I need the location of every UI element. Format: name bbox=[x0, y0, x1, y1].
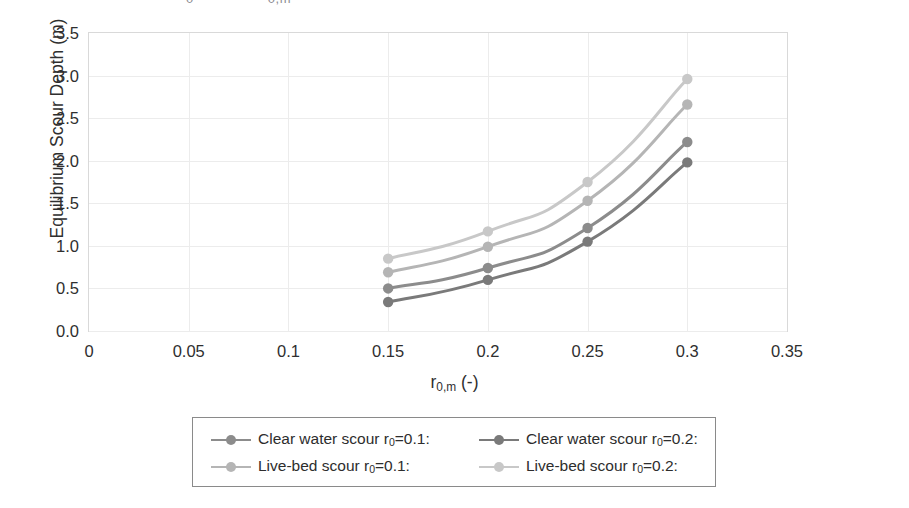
clipped-fragment-1: 0 bbox=[186, 0, 194, 6]
x-tick-label: 0.15 bbox=[372, 342, 404, 361]
x-axis-title-unit: (-) bbox=[456, 372, 478, 392]
data-point-marker bbox=[383, 297, 393, 307]
data-point-marker bbox=[682, 74, 692, 84]
gridline-horizontal bbox=[89, 331, 787, 332]
legend-dot-icon bbox=[226, 462, 236, 472]
legend-dot-icon bbox=[494, 435, 504, 445]
series-live-bed-scour-r0-0-2 bbox=[383, 74, 693, 264]
x-axis-title: r0,m (-) bbox=[0, 372, 909, 394]
y-tick-label: 2.0 bbox=[19, 151, 79, 170]
legend-label: Live-bed scour r0=0.2: bbox=[526, 457, 678, 475]
legend-dot-icon bbox=[494, 462, 504, 472]
y-tick-label: 1.0 bbox=[19, 236, 79, 255]
legend-item[interactable]: Live-bed scour r0=0.1: bbox=[193, 457, 475, 475]
y-tick-label: 1.5 bbox=[19, 194, 79, 213]
data-point-marker bbox=[483, 242, 493, 252]
legend-label: Live-bed scour r0=0.1: bbox=[258, 457, 410, 475]
y-tick-label: 0.5 bbox=[19, 279, 79, 298]
y-tick-label: 2.5 bbox=[19, 109, 79, 128]
y-tick-label: 0.0 bbox=[19, 322, 79, 341]
legend-dot-icon bbox=[226, 435, 236, 445]
data-point-marker bbox=[483, 263, 493, 273]
data-point-marker bbox=[582, 223, 592, 233]
plot-area: 0.00.51.01.52.02.53.03.5 00.050.10.150.2… bbox=[88, 32, 788, 332]
data-point-marker bbox=[383, 253, 393, 263]
legend-label: Clear water scour r0=0.2: bbox=[526, 430, 698, 448]
legend-marker-icon bbox=[479, 434, 519, 446]
x-tick-label: 0.35 bbox=[771, 342, 803, 361]
data-point-marker bbox=[483, 226, 493, 236]
data-point-marker bbox=[682, 99, 692, 109]
chart-legend: Clear water scour r0=0.1:Clear water sco… bbox=[192, 417, 716, 487]
chart-figure: 0 0,m Equilibrium Scour Depth (m) 0.00.5… bbox=[0, 0, 909, 508]
legend-marker-icon bbox=[479, 461, 519, 473]
legend-row: Live-bed scour r0=0.1:Live-bed scour r0=… bbox=[193, 453, 715, 480]
clipped-top-text: 0 0,m bbox=[186, 0, 291, 6]
x-tick-label: 0.05 bbox=[173, 342, 205, 361]
y-tick-label: 3.0 bbox=[19, 66, 79, 85]
legend-label: Clear water scour r0=0.1: bbox=[258, 430, 430, 448]
legend-item[interactable]: Live-bed scour r0=0.2: bbox=[475, 457, 678, 475]
data-point-marker bbox=[682, 157, 692, 167]
x-tick-label: 0.3 bbox=[676, 342, 699, 361]
legend-marker-icon bbox=[211, 434, 251, 446]
data-point-marker bbox=[582, 177, 592, 187]
x-tick-label: 0.25 bbox=[572, 342, 604, 361]
data-point-marker bbox=[682, 137, 692, 147]
legend-item[interactable]: Clear water scour r0=0.1: bbox=[193, 430, 475, 448]
x-axis-title-sub: 0,m bbox=[436, 380, 456, 394]
series-layer bbox=[89, 33, 787, 331]
legend-row: Clear water scour r0=0.1:Clear water sco… bbox=[193, 426, 715, 453]
data-point-marker bbox=[582, 236, 592, 246]
y-tick-label: 3.5 bbox=[19, 24, 79, 43]
data-point-marker bbox=[483, 275, 493, 285]
legend-item[interactable]: Clear water scour r0=0.2: bbox=[475, 430, 698, 448]
x-tick-label: 0.2 bbox=[476, 342, 499, 361]
clipped-fragment-2: 0,m bbox=[268, 0, 291, 6]
x-tick-label: 0.1 bbox=[277, 342, 300, 361]
legend-marker-icon bbox=[211, 461, 251, 473]
data-point-marker bbox=[383, 283, 393, 293]
data-point-marker bbox=[582, 196, 592, 206]
x-tick-label: 0 bbox=[84, 342, 93, 361]
data-point-marker bbox=[383, 267, 393, 277]
